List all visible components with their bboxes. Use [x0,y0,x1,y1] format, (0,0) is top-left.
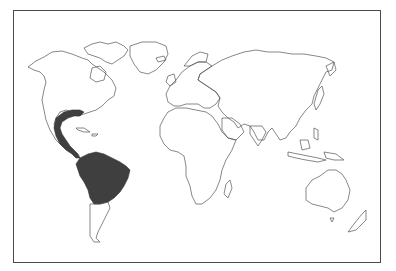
highlighted-region-gulf-coast [54,110,84,158]
landmass-asia [198,50,334,140]
highlighted-region-south-america [76,152,130,204]
landmass-japan [314,86,324,110]
world-map [0,0,396,271]
landmass-greenland [130,42,168,74]
landmass-british-isles [166,74,176,86]
landmass-new-zealand [348,210,366,232]
landmass-madagascar [224,180,232,198]
landmass-north-america [28,51,116,156]
landmass-kamchatka [326,62,336,76]
landmass-cuba [76,128,90,132]
landmass-borneo [300,140,310,150]
landmass-indonesia [288,152,326,162]
landmass-southern-south-america [90,202,110,242]
landmass-tasmania [330,218,334,222]
landmass-australia [306,170,350,212]
landmass-europe [166,62,220,108]
landmass-new-guinea [324,152,344,160]
landmass-hispaniola [92,134,98,136]
landmass-philippines [314,128,318,140]
landmass-scandinavia [184,52,208,66]
landmass-canadian-arctic [84,42,128,64]
